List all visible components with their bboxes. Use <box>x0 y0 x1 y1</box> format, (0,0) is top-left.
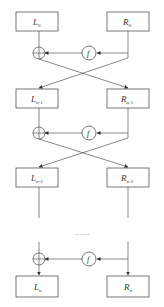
box-Rn-1: Rn-1 <box>107 89 149 108</box>
box-Ln-1: Ln-1 <box>16 89 58 108</box>
f-function-node: f <box>82 252 96 266</box>
xor-icon <box>33 47 45 59</box>
box-R0: R0 <box>107 12 149 31</box>
xor-icon <box>33 127 45 139</box>
box-L0: L0 <box>16 12 58 31</box>
box-Rn: Rn <box>107 276 149 297</box>
box-Rn-2: Rn-2 <box>107 168 149 187</box>
continuation-lines <box>39 187 128 259</box>
f-function-node: f <box>82 126 96 140</box>
f-function-node: f <box>82 46 96 60</box>
box-Ln: Ln <box>16 276 58 297</box>
xor-icon <box>33 253 45 265</box>
ellipsis: …… <box>75 229 90 236</box>
box-Ln-2: Ln-2 <box>16 168 58 187</box>
feistel-diagram: L0 R0 f Ln-1 Rn-1 <box>0 0 164 307</box>
round-1-connections <box>39 31 128 88</box>
